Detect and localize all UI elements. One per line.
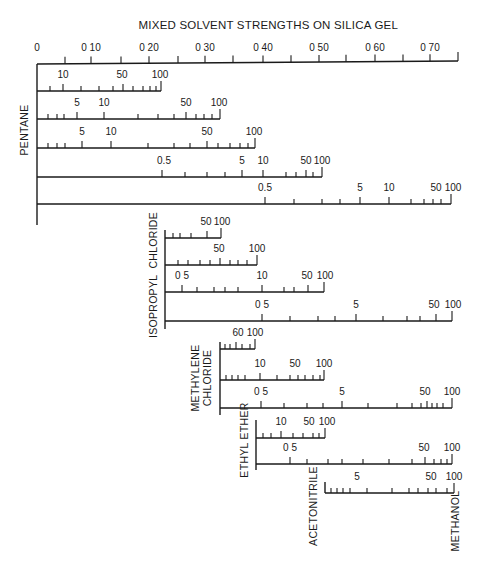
scale-tick-label: 5 [74,97,80,108]
solvent-label-isopropyl-chloride: ISOPROPYL CHLORIDE [147,212,159,338]
scale-tick-label: 5 [339,386,345,397]
scale-tick-label: 5 [79,126,85,137]
scale-tick-label: 50 [180,97,192,108]
scale-tick-label: 50 [301,270,313,281]
scale-tick-label: 10 [254,358,266,369]
main-axis-tick-label: 0 60 [365,42,385,53]
main-axis-line [37,61,458,64]
scale-tick-label: 0 5 [254,386,268,397]
main-axis-tick-label: 0 30 [195,42,215,53]
scale-row: 1050100 [256,416,336,438]
scale-row: 0 51050100 [165,270,334,292]
main-axis-tick-label: 0 40 [253,42,273,53]
solvent-group-pentane: PENTANE105010051050100510501000.55105010… [18,64,462,225]
scale-tick-label: 100 [214,216,231,227]
main-axis-tick-label: 0 20 [139,42,159,53]
solvent-strength-axis: 00 100 200 300 400 500 600 70 [34,42,458,64]
scale-tick-label: 100 [317,270,334,281]
scale-tick-label: 100 [211,97,228,108]
solvent-label-methylene: METHYLENECHLORIDE [189,345,213,412]
scale-row: 0.551050100 [37,182,462,204]
scale-tick-label: 10 [257,155,269,166]
scale-tick-label: 100 [247,327,264,338]
scale-tick-label: 50 [300,155,312,166]
scale-row: 1050100 [37,69,169,91]
nomogram-canvas: MIXED SOLVENT STRENGTHS ON SILICA GEL 00… [0,0,482,567]
scale-tick-label: 50 [213,243,225,254]
solvent-label-methanol: METHANOL [449,491,461,552]
diagram-title: MIXED SOLVENT STRENGTHS ON SILICA GEL [139,19,399,31]
scale-tick-label: 100 [446,471,463,482]
scale-tick-label: 50 [303,416,315,427]
scale-row: 50100 [165,216,231,238]
scale-tick-label: 5 [354,471,360,482]
scale-row: 0 5550100 [220,386,461,408]
solvent-scales: PENTANE105010051050100510501000.55105010… [18,64,463,546]
solvent-label-acetonitrile: ACETONITRILE [307,466,319,546]
scale-tick-label: 0.5 [157,155,171,166]
scale-tick-label: 100 [445,182,462,193]
scale-tick-label: 100 [246,126,263,137]
scale-row: 550100 [325,471,463,493]
scale-tick-label: 50 [430,182,442,193]
scale-tick-label: 50 [418,442,430,453]
scale-tick-label: 50 [419,386,431,397]
scale-tick-label: 10 [57,69,69,80]
scale-tick-label: 50 [200,216,212,227]
main-axis-tick-label: 0 [34,42,40,53]
main-axis-tick-label: 0 50 [309,42,329,53]
scale-tick-label: 5 [239,155,245,166]
scale-tick-label: 100 [249,243,266,254]
scale-tick-label: 10 [105,126,117,137]
scale-row: 0.551050100 [37,155,331,177]
scale-tick-label: 100 [445,299,462,310]
scale-tick-label: 5 [357,182,363,193]
solvent-group-ethyl-ether: ETHYL ETHER10501000 550100 [238,402,461,477]
scale-row: 60100 [220,327,264,349]
scale-tick-label: 50 [428,299,440,310]
solvent-group-acetonitrile: ACETONITRILE550100 [307,466,463,546]
scale-tick-label: 100 [444,386,461,397]
scale-row: 51050100 [37,97,228,119]
scale-tick-label: 0.5 [258,182,272,193]
scale-tick-label: 60 [232,327,244,338]
scale-row: 0 5550100 [165,299,462,321]
scale-tick-label: 50 [425,471,437,482]
solvent-label-ethyl-ether: ETHYL ETHER [238,402,250,477]
scale-row: 50100 [165,243,266,265]
scale-tick-label: 100 [314,155,331,166]
solvent-group-isopropyl-chloride: ISOPROPYL CHLORIDE50100501000 510501000 … [147,212,462,338]
solvent-group-methylene: METHYLENECHLORIDE6010010501000 5550100 [189,327,461,415]
scale-tick-label: 50 [201,126,213,137]
scale-tick-label: 100 [319,416,336,427]
scale-tick-label: 10 [383,182,395,193]
scale-tick-label: 100 [152,69,169,80]
methanol-label-group: METHANOL [449,491,461,552]
scale-tick-label: 100 [444,442,461,453]
solvent-label-pentane: PENTANE [18,105,30,156]
scale-tick-label: 10 [275,416,287,427]
scale-tick-label: 5 [353,299,359,310]
scale-tick-label: 0 5 [175,270,189,281]
scale-tick-label: 0 5 [283,442,297,453]
main-axis-tick-label: 0 10 [81,42,101,53]
scale-tick-label: 0 5 [255,299,269,310]
scale-tick-label: 50 [116,69,128,80]
scale-tick-label: 50 [289,358,301,369]
scale-tick-label: 10 [256,270,268,281]
scale-row: 0 550100 [256,442,461,464]
nomogram-diagram: MIXED SOLVENT STRENGTHS ON SILICA GEL 00… [0,0,482,567]
main-axis-tick-label: 0 70 [420,42,440,53]
scale-tick-label: 10 [98,97,110,108]
scale-tick-label: 100 [316,358,333,369]
scale-row: 1050100 [220,358,333,380]
scale-row: 51050100 [37,126,263,148]
